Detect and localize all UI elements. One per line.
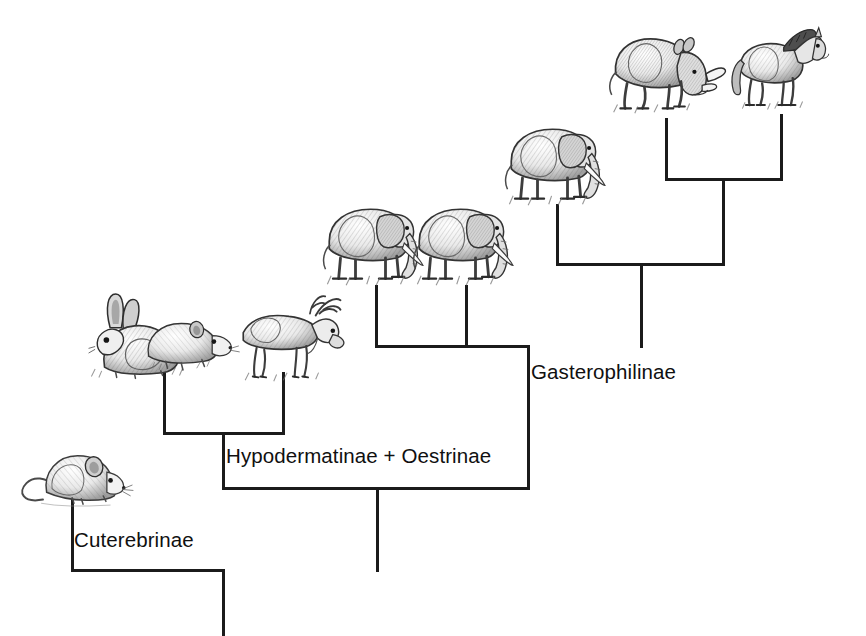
tree-segment-upper-bar: [556, 263, 725, 266]
tree-segment-node2-stem: [376, 487, 379, 572]
deer-illustration: [228, 286, 350, 386]
tree-segment-gastero-stem: [527, 345, 530, 490]
clade-label-hypodermatinae-oestrinae: Hypodermatinae + Oestrinae: [226, 446, 491, 467]
elephant-illustration: [500, 104, 620, 208]
tree-segment-gastero-bar: [375, 345, 530, 348]
tree-segment-perisso-bar: [665, 178, 783, 181]
clade-label-cuterebrinae: Cuterebrinae: [74, 530, 194, 551]
horse-illustration: [728, 14, 843, 114]
clade-label-gasterophilinae: Gasterophilinae: [531, 362, 676, 383]
tree-segment-eleph3-tip: [556, 204, 559, 266]
tree-segment-root-bar: [71, 569, 225, 572]
tree-segment-hypoderm-stem: [222, 432, 225, 490]
tree-segment-eleph1-tip: [375, 285, 378, 348]
cladogram-figure: Cuterebrinae Hypodermatinae + Oestrinae …: [0, 0, 866, 636]
tree-segment-perisso-stem: [722, 178, 725, 266]
tree-segment-root-stem: [222, 569, 225, 636]
tree-segment-upper-stem: [640, 263, 643, 348]
tree-segment-rhino-tip: [665, 118, 668, 181]
rhinoceros-illustration: [605, 18, 730, 118]
tree-segment-hypoderm-bar: [163, 432, 285, 435]
mouse-illustration: [14, 432, 134, 527]
tree-segment-horse-tip: [780, 114, 783, 181]
tree-segment-eleph2-tip: [465, 285, 468, 348]
